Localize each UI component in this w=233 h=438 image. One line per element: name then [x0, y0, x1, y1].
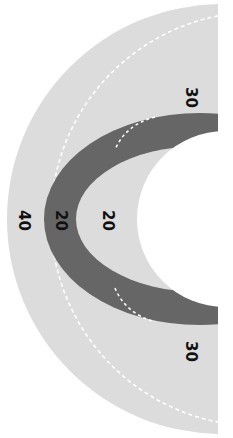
label-outer-bottom: 30 [183, 341, 198, 362]
label-dark-ring: 20 [53, 210, 68, 231]
label-outer-left: 40 [16, 210, 31, 231]
label-inner-band: 20 [100, 210, 115, 231]
right-edge-white [218, 0, 233, 438]
label-outer-top: 30 [183, 87, 198, 108]
